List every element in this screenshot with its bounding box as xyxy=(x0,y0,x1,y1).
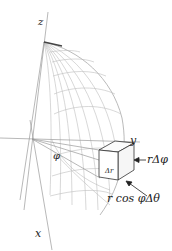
z-axis-label: z xyxy=(38,17,43,27)
theta-arrow-head xyxy=(126,181,132,186)
y-axis-label: y xyxy=(130,135,136,146)
delta-r-label: Δr xyxy=(105,168,113,175)
phi-angle-label: φ xyxy=(53,151,60,161)
r-cos-phi-delta-theta-label: r cos φΔθ xyxy=(107,193,160,204)
phi-arrow-head xyxy=(134,158,139,163)
r-delta-phi-label: rΔφ xyxy=(147,154,168,165)
x-axis-label: x xyxy=(35,228,41,239)
sphere-diagram xyxy=(0,0,172,251)
